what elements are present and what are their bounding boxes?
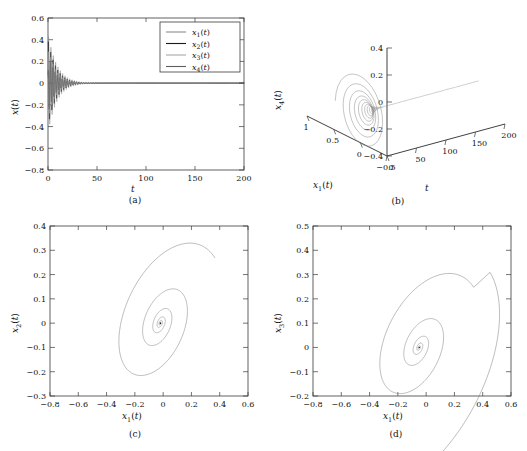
panel-b: 0.40.20−0.2−0.410.50−0.5050100150200 x4(…	[263, 0, 527, 215]
svg-text:−0.2: −0.2	[27, 368, 46, 377]
svg-text:0: 0	[45, 174, 50, 183]
panel-b-caption: (b)	[368, 196, 428, 206]
svg-text:1: 1	[303, 123, 308, 132]
svg-text:x4(t): x4(t)	[192, 63, 210, 73]
svg-text:−0.4: −0.4	[360, 400, 379, 409]
svg-text:−0.2: −0.2	[25, 101, 44, 110]
svg-text:x1(t): x1(t)	[192, 28, 210, 38]
svg-text:−0.8: −0.8	[40, 400, 59, 409]
svg-text:0: 0	[161, 400, 166, 409]
svg-text:x2(t): x2(t)	[192, 40, 210, 50]
svg-text:0.4: 0.4	[296, 246, 309, 255]
svg-text:0.2: 0.2	[448, 400, 461, 409]
panel-a-canvas: 0501001502000.60.40.20−0.2−0.4−0.6−0.8x1…	[0, 0, 265, 215]
svg-text:0.5: 0.5	[296, 222, 309, 231]
svg-text:−0.4: −0.4	[25, 123, 44, 132]
panel-d-ylabel: x3(t)	[273, 313, 286, 333]
panel-c-xlabel: x1(t)	[122, 411, 142, 424]
svg-text:0.6: 0.6	[31, 14, 44, 23]
svg-text:0.3: 0.3	[296, 271, 309, 280]
svg-text:100: 100	[442, 147, 457, 156]
svg-text:0: 0	[378, 98, 383, 107]
svg-text:−0.1: −0.1	[27, 343, 46, 352]
svg-text:0.2: 0.2	[296, 295, 309, 304]
svg-text:−0.2: −0.2	[364, 125, 383, 134]
svg-text:0.4: 0.4	[370, 44, 383, 53]
panel-b-canvas: 0.40.20−0.2−0.410.50−0.5050100150200	[263, 0, 527, 215]
svg-text:0: 0	[304, 343, 309, 352]
svg-text:−0.4: −0.4	[97, 400, 116, 409]
svg-text:−0.3: −0.3	[27, 392, 46, 401]
panel-d: −0.8−0.6−0.4−0.200.20.40.60.50.40.30.20.…	[263, 208, 527, 451]
svg-text:50: 50	[92, 174, 102, 183]
svg-text:0: 0	[357, 150, 362, 159]
svg-text:0.1: 0.1	[33, 295, 46, 304]
svg-text:0.5: 0.5	[326, 136, 339, 145]
panel-d-caption: (d)	[366, 429, 426, 439]
svg-text:−0.8: −0.8	[303, 400, 322, 409]
svg-text:0: 0	[388, 163, 393, 172]
svg-text:0: 0	[41, 319, 46, 328]
svg-text:−0.2: −0.2	[388, 400, 407, 409]
svg-text:0.4: 0.4	[33, 222, 46, 231]
svg-text:100: 100	[138, 174, 153, 183]
panel-d-xlabel: x1(t)	[383, 411, 403, 424]
svg-text:50: 50	[415, 155, 425, 164]
svg-text:0.2: 0.2	[31, 57, 44, 66]
panel-a-caption: (a)	[105, 195, 165, 205]
panel-c-ylabel: x2(t)	[10, 313, 23, 333]
panel-c-caption: (c)	[105, 429, 165, 439]
svg-text:0.4: 0.4	[213, 400, 226, 409]
svg-text:0: 0	[424, 400, 429, 409]
svg-text:0: 0	[39, 79, 44, 88]
svg-text:−0.1: −0.1	[290, 368, 309, 377]
svg-text:−0.8: −0.8	[25, 166, 44, 175]
svg-text:−0.6: −0.6	[332, 400, 351, 409]
svg-text:−0.2: −0.2	[290, 392, 309, 401]
panel-a-ylabel: x(t)	[10, 99, 20, 115]
panel-a: 0501001502000.60.40.20−0.2−0.4−0.6−0.8x1…	[0, 0, 265, 215]
panel-b-zlabel: x4(t)	[273, 90, 286, 110]
panel-b-ylabel: t	[425, 183, 429, 193]
svg-text:x3(t): x3(t)	[192, 51, 210, 61]
svg-text:0.2: 0.2	[370, 71, 383, 80]
svg-text:150: 150	[472, 139, 487, 148]
svg-text:0.4: 0.4	[476, 400, 489, 409]
svg-text:200: 200	[501, 131, 516, 140]
figure-root: 0501001502000.60.40.20−0.2−0.4−0.6−0.8x1…	[0, 0, 527, 451]
svg-text:0.6: 0.6	[242, 400, 255, 409]
svg-text:−0.6: −0.6	[69, 400, 88, 409]
svg-text:150: 150	[187, 174, 202, 183]
panel-a-xlabel: t	[131, 184, 135, 194]
svg-text:200: 200	[236, 174, 251, 183]
svg-text:−0.6: −0.6	[25, 144, 44, 153]
svg-text:0.3: 0.3	[33, 246, 46, 255]
svg-text:0.2: 0.2	[33, 271, 46, 280]
svg-text:−0.4: −0.4	[364, 152, 383, 161]
svg-text:−0.2: −0.2	[125, 400, 144, 409]
panel-c: −0.8−0.6−0.4−0.200.20.40.60.40.30.20.10−…	[0, 208, 265, 451]
svg-text:0.6: 0.6	[505, 400, 518, 409]
svg-text:0.2: 0.2	[185, 400, 198, 409]
svg-text:0.4: 0.4	[31, 36, 44, 45]
panel-b-xlabel: x1(t)	[313, 180, 333, 193]
svg-text:0.1: 0.1	[296, 319, 309, 328]
